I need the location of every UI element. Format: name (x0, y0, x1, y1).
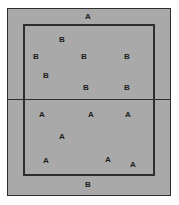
label-a-11: A (59, 133, 65, 141)
label-b-3: B (81, 53, 87, 61)
label-b-15: B (85, 181, 91, 189)
label-a-9: A (88, 111, 94, 119)
label-a-8: A (39, 111, 45, 119)
label-b-5: B (43, 72, 49, 80)
horizontal-divider-line (7, 99, 171, 100)
label-a-10: A (125, 111, 131, 119)
label-b-2: B (33, 53, 39, 61)
label-b-7: B (124, 84, 130, 92)
inner-rectangle (23, 24, 155, 176)
label-a-12: A (43, 157, 49, 165)
label-a-0: A (85, 13, 91, 21)
venn-region-figure: ABBBBBBBAAAAAAAB (0, 0, 179, 205)
label-b-6: B (83, 84, 89, 92)
label-b-1: B (59, 36, 65, 44)
label-a-14: A (130, 161, 136, 169)
label-b-4: B (124, 53, 130, 61)
label-a-13: A (105, 156, 111, 164)
